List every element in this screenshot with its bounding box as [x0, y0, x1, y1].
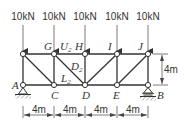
truss-members: [23, 54, 148, 85]
node-label-G: G: [44, 40, 52, 52]
node-C: [51, 82, 56, 87]
node-label-E: E: [112, 89, 120, 101]
load-label-1: 10kN: [11, 11, 34, 22]
diagonal-1: [23, 54, 54, 85]
node-label-C: C: [51, 89, 59, 101]
span-label-1: 4m: [32, 104, 46, 115]
span-label-3: 4m: [94, 104, 108, 115]
node-label-D: D: [81, 89, 90, 101]
node-H: [82, 51, 87, 56]
member-label-D2: D2: [70, 60, 83, 74]
node-label-H: H: [74, 40, 84, 52]
load-label-5: 10kN: [136, 11, 159, 22]
node-top-left: [20, 51, 25, 56]
load-label-4: 10kN: [105, 11, 128, 22]
node-label-I: I: [107, 40, 113, 52]
height-dimension-label: 4m: [164, 64, 178, 75]
node-label-B: B: [157, 89, 164, 101]
node-label-J: J: [138, 40, 144, 52]
load-label-3: 10kN: [73, 11, 96, 22]
diagonal-4: [117, 54, 148, 85]
span-label-4: 4m: [126, 104, 140, 115]
roller-support-B: [140, 88, 156, 101]
member-label-U2: U2: [60, 40, 72, 54]
load-label-2: 10kN: [42, 11, 65, 22]
span-label-2: 4m: [63, 104, 77, 115]
node-I: [114, 51, 119, 56]
node-D: [82, 82, 87, 87]
node-J: [145, 51, 150, 56]
node-G: [51, 51, 56, 56]
node-E: [114, 82, 119, 87]
diagonal-3: [85, 54, 117, 85]
node-label-A: A: [11, 79, 19, 91]
truss-diagram: 10kN 10kN 10kN 10kN 10kN: [0, 0, 185, 126]
member-label-L2: L2: [60, 72, 71, 86]
